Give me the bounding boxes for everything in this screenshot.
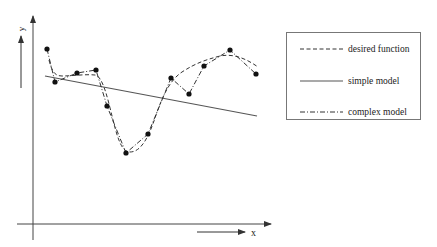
legend-label: complex model: [348, 107, 407, 117]
legend-label: simple model: [348, 76, 400, 86]
data-point: [145, 131, 150, 136]
y-axis-label: y: [16, 26, 26, 31]
simple-model-line: [45, 76, 257, 116]
x-axis-label: x: [251, 227, 256, 238]
data-point: [52, 79, 57, 84]
data-point: [104, 103, 109, 108]
data-point: [74, 70, 79, 75]
data-point: [168, 75, 173, 80]
data-point: [253, 71, 258, 76]
data-point: [44, 46, 49, 51]
data-point: [123, 150, 128, 155]
data-point: [186, 91, 191, 96]
data-point: [227, 47, 232, 52]
diagram-canvas: y x: [0, 0, 437, 247]
data-point: [201, 63, 206, 68]
legend: desired function simple model complex mo…: [287, 33, 421, 120]
legend-label: desired function: [348, 44, 410, 54]
desired-function-curve: [49, 55, 258, 152]
data-point: [93, 67, 98, 72]
complex-model-curve: [47, 49, 256, 153]
data-points: [44, 46, 258, 155]
